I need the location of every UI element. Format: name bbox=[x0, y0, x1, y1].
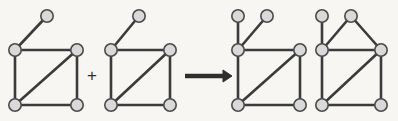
edges-layer bbox=[15, 16, 381, 105]
graph-edges-result-2 bbox=[322, 16, 381, 105]
graph-node bbox=[316, 10, 328, 22]
graph-node bbox=[105, 99, 117, 111]
graph-edges-operand-1 bbox=[15, 16, 77, 105]
graph-node bbox=[105, 44, 117, 56]
figure-canvas: + bbox=[0, 0, 398, 121]
graph-node bbox=[232, 44, 244, 56]
graph-sum-figure: + bbox=[0, 0, 398, 121]
graph-edge bbox=[15, 50, 77, 105]
graph-edges-operand-2 bbox=[111, 16, 170, 105]
graph-node bbox=[232, 99, 244, 111]
graph-node bbox=[375, 44, 387, 56]
graph-edge bbox=[238, 50, 300, 105]
graph-node bbox=[316, 44, 328, 56]
graph-node bbox=[294, 99, 306, 111]
graph-node bbox=[261, 10, 273, 22]
plus-symbol: + bbox=[87, 66, 97, 85]
graph-node bbox=[375, 99, 387, 111]
graph-node bbox=[41, 10, 53, 22]
graph-node bbox=[164, 99, 176, 111]
graph-nodes-operand-2 bbox=[105, 10, 176, 111]
graph-node bbox=[345, 10, 357, 22]
graph-edge bbox=[111, 50, 170, 105]
graph-edges-result-1 bbox=[238, 16, 300, 105]
graph-node bbox=[71, 44, 83, 56]
graph-node bbox=[164, 44, 176, 56]
plus-operator-icon: + bbox=[87, 66, 97, 85]
graph-node bbox=[232, 10, 244, 22]
graph-nodes-result-2 bbox=[316, 10, 387, 111]
arrow-head bbox=[223, 70, 232, 82]
graph-node bbox=[294, 44, 306, 56]
graph-node bbox=[71, 99, 83, 111]
graph-node bbox=[9, 44, 21, 56]
graph-nodes-operand-1 bbox=[9, 10, 83, 111]
graph-node bbox=[133, 10, 145, 22]
graph-nodes-result-1 bbox=[232, 10, 306, 111]
graph-edge bbox=[15, 16, 47, 50]
arrow-operator-icon bbox=[185, 70, 232, 82]
graph-edge bbox=[322, 50, 381, 105]
graph-node bbox=[316, 99, 328, 111]
graph-node bbox=[9, 99, 21, 111]
operators-layer: + bbox=[87, 66, 232, 85]
